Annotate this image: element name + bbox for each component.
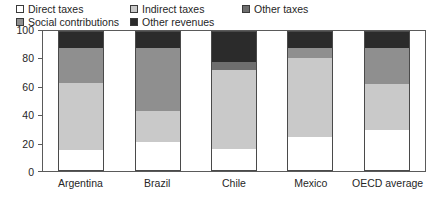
bar-segment-indirect-taxes [211,70,257,148]
x-tick-label-chile: Chile [196,176,272,190]
chart-legend: Direct taxes Indirect taxes Other taxes … [16,3,416,29]
legend-swatch-other-revenues [130,18,138,26]
legend-item-direct-taxes: Direct taxes [16,3,83,15]
bar-segment-social-contributions [287,48,333,58]
x-tick-label-argentina: Argentina [42,176,118,190]
y-tick-label-20: 20 [22,139,34,149]
bar-segment-direct-taxes [364,130,410,171]
stacked-bar-chile[interactable] [211,31,257,171]
stacked-bar-mexico[interactable] [287,31,333,171]
y-tick-label-0: 0 [28,167,34,177]
bar-segment-other-taxes [211,62,257,70]
legend-label-other-taxes: Other taxes [254,3,308,15]
bar-segment-other-revenues [58,31,104,48]
bar-group-argentina[interactable] [58,31,104,171]
x-tick-label-mexico: Mexico [273,176,349,190]
bar-segment-indirect-taxes [58,83,104,150]
legend-item-other-revenues: Other revenues [130,16,214,28]
legend-label-social-contributions: Social contributions [28,16,119,28]
bar-segment-other-revenues [135,31,181,48]
bar-series-container [43,31,425,171]
x-tick-label-brazil: Brazil [119,176,195,190]
legend-swatch-other-taxes [242,5,250,13]
legend-label-other-revenues: Other revenues [142,16,214,28]
bar-segment-other-revenues [364,31,410,48]
y-tick-label-80: 80 [22,53,34,63]
bar-group-oecd-average[interactable] [364,31,410,171]
stacked-bar-argentina[interactable] [58,31,104,171]
legend-row-1: Direct taxes Indirect taxes Other taxes [16,3,416,15]
bar-segment-other-revenues [211,31,257,62]
legend-swatch-direct-taxes [16,5,24,13]
legend-row-2: Social contributions Other revenues [16,16,416,28]
stacked-bar-chart: Direct taxes Indirect taxes Other taxes … [0,0,430,201]
legend-item-other-taxes: Other taxes [242,3,308,15]
legend-swatch-indirect-taxes [130,5,138,13]
bar-segment-other-revenues [287,31,333,48]
legend-item-indirect-taxes: Indirect taxes [130,3,204,15]
bar-segment-direct-taxes [58,150,104,171]
y-tick-label-60: 60 [22,82,34,92]
stacked-bar-brazil[interactable] [135,31,181,171]
plot-wrapper: 100806040200 ArgentinaBrazilChileMexicoO… [0,30,430,175]
bar-group-chile[interactable] [211,31,257,171]
bar-segment-indirect-taxes [287,58,333,138]
bar-segment-indirect-taxes [364,84,410,130]
legend-label-direct-taxes: Direct taxes [28,3,83,15]
x-tick-label-oecd-average: OECD average [350,176,426,190]
bar-segment-direct-taxes [211,149,257,171]
bar-segment-social-contributions [58,48,104,83]
x-axis: ArgentinaBrazilChileMexicoOECD average [42,176,426,196]
legend-label-indirect-taxes: Indirect taxes [142,3,204,15]
bar-segment-social-contributions [364,48,410,84]
bar-segment-social-contributions [135,48,181,111]
bar-segment-indirect-taxes [135,111,181,142]
y-tick-label-100: 100 [16,25,34,35]
bar-group-brazil[interactable] [135,31,181,171]
bar-segment-direct-taxes [287,137,333,171]
stacked-bar-oecd-average[interactable] [364,31,410,171]
y-axis: 100806040200 [0,30,38,172]
bar-segment-direct-taxes [135,142,181,171]
bar-group-mexico[interactable] [287,31,333,171]
plot-area [42,30,426,172]
y-tick-label-40: 40 [22,110,34,120]
